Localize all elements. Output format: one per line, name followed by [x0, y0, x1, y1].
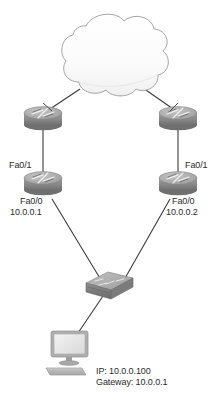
switch-icon: [86, 272, 133, 299]
label-router-right-ip: 10.0.0.2: [166, 207, 198, 218]
label-router-right-fa01: Fa0/1: [185, 160, 208, 171]
label-router-left-ip: 10.0.0.1: [10, 207, 42, 218]
router-top-right-icon: [159, 103, 197, 130]
label-router-right-fa00: Fa0/0: [172, 196, 195, 207]
label-pc-ip: IP: 10.0.0.100: [96, 366, 151, 377]
router-left-icon: [24, 172, 62, 196]
workstation-icon: [46, 331, 88, 375]
link-router-right-to-switch: [124, 199, 170, 280]
router-right-icon: [159, 172, 197, 196]
internet-cloud-icon: [62, 14, 169, 96]
router-top-left-icon: [24, 103, 62, 130]
label-router-left-fa00: Fa0/0: [20, 196, 43, 207]
label-pc-gateway: Gateway: 10.0.0.1: [96, 377, 167, 388]
label-router-left-fa01: Fa0/1: [9, 160, 32, 171]
network-diagram: Fa0/1 Fa0/0 10.0.0.1 Fa0/1 Fa0/0 10.0.0.…: [0, 0, 223, 394]
link-switch-to-pc: [78, 296, 103, 333]
link-router-left-to-switch: [52, 199, 101, 280]
